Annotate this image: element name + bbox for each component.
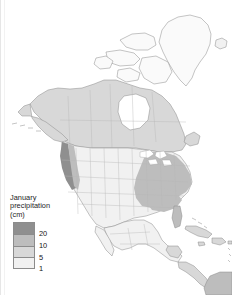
landmass-newfoundland: [184, 132, 200, 146]
map-legend: January precipitation (cm) 20 10 5 1: [10, 194, 68, 269]
legend-scale: 20 10 5 1: [13, 222, 62, 269]
landmass-central-america: [178, 262, 210, 288]
lesser-antilles-islets: [228, 248, 231, 262]
precipitation-map-figure: .c20{fill:#8f8f8f;} .c10{fill:#bdbdbd;} …: [0, 0, 232, 295]
landmass-united-states: [60, 142, 192, 228]
legend-label-1: 1: [39, 265, 43, 273]
legend-swatch-20: [13, 222, 35, 234]
legend-title: January precipitation (cm): [10, 194, 68, 219]
legend-row: 20: [13, 222, 62, 234]
legend-row: 5: [13, 246, 62, 258]
legend-swatch-5: [13, 246, 35, 258]
landmass-canada: [12, 80, 186, 152]
legend-swatch-10: [13, 234, 35, 246]
legend-row: 10: [13, 234, 62, 246]
landmass-south-america: [204, 272, 232, 295]
landmass-caribbean: [185, 218, 232, 262]
landmass-iceland: [215, 38, 227, 49]
legend-row: 1: [13, 257, 62, 269]
legend-swatch-1: [13, 257, 35, 269]
